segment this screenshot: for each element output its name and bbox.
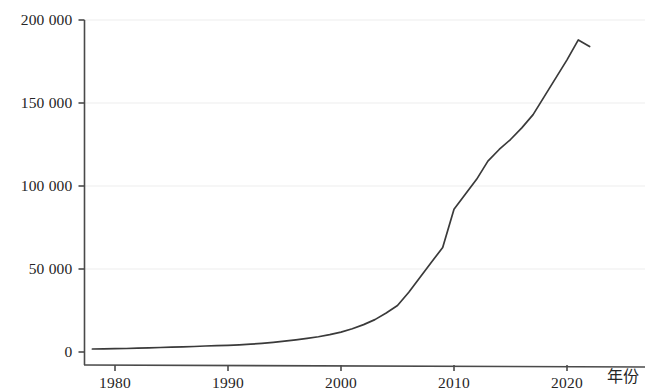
- y-tick-label: 200 000: [0, 11, 73, 29]
- y-tick-label: 50 000: [0, 260, 73, 278]
- y-tick-marks: [79, 20, 85, 352]
- x-tick-label: 2000: [325, 374, 357, 390]
- x-axis-title: 年份: [607, 363, 639, 387]
- y-tick-label: 100 000: [0, 177, 73, 195]
- x-axis-line: [84, 365, 645, 367]
- x-tick-label: 1980: [99, 374, 131, 390]
- x-tick-label: 1990: [212, 374, 244, 390]
- y-tick-label: 0: [0, 343, 73, 361]
- gridline-group: [85, 20, 646, 269]
- axis-spines: [84, 20, 645, 367]
- x-tick-label: 2020: [551, 374, 583, 390]
- chart-plot-area: [0, 0, 648, 390]
- x-tick-label: 2010: [438, 374, 470, 390]
- y-tick-label: 150 000: [0, 94, 73, 112]
- chart-figure: 050 000100 000150 000200 000 19801990200…: [0, 0, 648, 390]
- data-series-line: [92, 40, 589, 349]
